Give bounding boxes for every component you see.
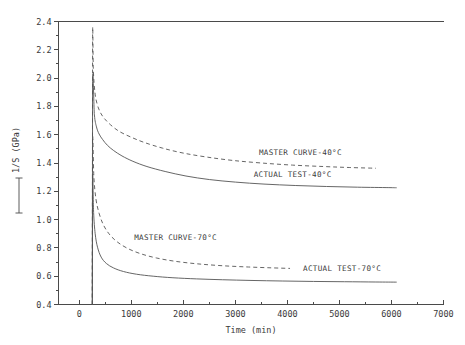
y-tick-label: 2.0 — [36, 73, 51, 83]
series-annotations-group: MASTER CURVE-40°CACTUAL TEST-40°CMASTER … — [134, 148, 381, 272]
y-axis-title: 1/S (GPa) — [11, 127, 21, 173]
x-tick-label: 6000 — [381, 309, 401, 319]
tick-labels-group: 0.40.60.81.01.21.41.61.82.02.22.40100020… — [36, 17, 454, 319]
x-tick-label: 3000 — [225, 309, 245, 319]
x-tick-label: 1000 — [121, 309, 141, 319]
chart-svg: 0.40.60.81.01.21.41.61.82.02.22.40100020… — [0, 0, 465, 345]
curve-master-2 — [92, 136, 290, 304]
y-tick-label: 1.6 — [36, 130, 51, 140]
x-axis-title: Time (min) — [225, 325, 276, 335]
y-tick-label: 0.4 — [36, 300, 51, 310]
series-label-1: ACTUAL TEST-40°C — [254, 170, 332, 179]
y-tick-label: 0.8 — [36, 243, 51, 253]
y-tick-label: 1.4 — [36, 158, 51, 168]
y-tick-label: 1.8 — [36, 101, 51, 111]
ticks-group — [54, 22, 444, 305]
y-tick-label: 1.2 — [36, 186, 51, 196]
x-tick-label: 0 — [77, 309, 82, 319]
series-label-0: MASTER CURVE-40°C — [259, 148, 342, 157]
y-tick-label: 0.6 — [36, 271, 51, 281]
y-tick-label: 1.0 — [36, 215, 51, 225]
x-tick-label: 2000 — [173, 309, 193, 319]
x-tick-label: 7000 — [433, 309, 453, 319]
y-tick-label: 2.2 — [36, 45, 51, 55]
series-label-3: ACTUAL TEST-70°C — [303, 264, 381, 273]
x-tick-label: 5000 — [329, 309, 349, 319]
axes-group — [59, 22, 444, 305]
series-label-2: MASTER CURVE-70°C — [134, 233, 217, 242]
chart-container: 0.40.60.81.01.21.41.61.82.02.22.40100020… — [0, 0, 465, 345]
x-tick-label: 4000 — [277, 309, 297, 319]
y-tick-label: 2.4 — [36, 17, 51, 27]
